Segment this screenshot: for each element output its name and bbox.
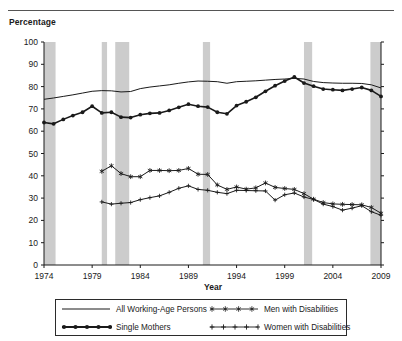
x-tick-label: 1979 — [83, 271, 102, 281]
series-marker — [225, 112, 229, 116]
x-tick-label: 2004 — [323, 271, 342, 281]
x-axis-title: Year — [204, 282, 223, 292]
legend-swatch-star-line — [208, 302, 260, 316]
series-marker — [292, 191, 296, 195]
x-tick-label: 1984 — [131, 271, 150, 281]
series-marker — [283, 193, 287, 197]
series-marker — [138, 198, 142, 202]
series-marker — [129, 116, 133, 120]
series-marker — [234, 188, 238, 192]
series-marker — [138, 113, 142, 117]
series-marker — [273, 84, 277, 88]
legend-swatch-circle-line — [60, 320, 112, 334]
series-marker — [263, 181, 267, 186]
legend-item-all-working-age-persons[interactable]: All Working-Age Persons — [56, 300, 208, 318]
series-marker — [100, 111, 104, 115]
series-marker — [196, 187, 200, 191]
series-marker — [148, 111, 152, 115]
x-tick-label: 2009 — [372, 271, 391, 281]
series-marker — [350, 206, 354, 210]
series-marker — [331, 88, 335, 92]
y-tick-label: 70 — [29, 104, 39, 114]
series-marker — [81, 110, 85, 114]
legend-swatch-line — [60, 302, 112, 316]
series-marker — [312, 84, 316, 88]
recession-band — [203, 42, 210, 265]
axes-group — [41, 42, 384, 268]
y-tick-label: 80 — [29, 82, 39, 92]
series-marker — [158, 111, 162, 115]
series-line-3 — [102, 186, 381, 215]
series-marker — [340, 208, 344, 212]
chart-canvas: 0102030405060708090100197419791984198919… — [0, 0, 402, 341]
series-marker — [283, 79, 287, 83]
series-marker — [71, 114, 75, 118]
series-marker — [360, 86, 364, 90]
series-marker — [186, 184, 190, 188]
series-marker — [292, 75, 296, 79]
recession-band — [370, 42, 381, 265]
series-line-1 — [44, 77, 381, 124]
series-marker — [215, 190, 219, 194]
x-tick-label: 1999 — [275, 271, 294, 281]
series-marker — [206, 105, 210, 109]
x-tick-label: 1994 — [227, 271, 246, 281]
y-tick-label: 90 — [29, 59, 39, 69]
recession-band — [44, 42, 56, 265]
recession-band — [115, 42, 129, 265]
legend-row: Single Mothers Women with Disabilities — [56, 318, 346, 336]
y-tick-label: 60 — [29, 126, 39, 136]
series-marker — [264, 89, 268, 93]
y-tick-label: 40 — [29, 171, 39, 181]
series-marker — [167, 190, 171, 194]
y-tick-label: 20 — [29, 215, 39, 225]
recession-band — [102, 42, 107, 265]
series-marker — [90, 104, 94, 108]
y-tick-label: 100 — [24, 37, 38, 47]
chart-legend: All Working-Age Persons Men with Disabil… — [55, 299, 347, 336]
recession-band — [304, 42, 312, 265]
series-marker — [157, 194, 161, 198]
x-tick-label: 1989 — [179, 271, 198, 281]
series-marker — [341, 88, 345, 92]
recession-bands-group — [44, 42, 381, 265]
series-marker — [369, 88, 373, 92]
series-marker — [177, 105, 181, 109]
series-marker — [302, 81, 306, 85]
x-tick-label: 1974 — [35, 271, 54, 281]
legend-row: All Working-Age Persons Men with Disabil… — [56, 300, 346, 318]
y-tick-label: 10 — [29, 238, 39, 248]
series-marker — [254, 189, 258, 193]
legend-label: Single Mothers — [116, 323, 171, 332]
legend-item-men-with-disabilities[interactable]: Men with Disabilities — [208, 300, 344, 318]
series-marker — [244, 100, 248, 104]
series-marker — [167, 109, 171, 113]
line-chart-svg: 0102030405060708090100197419791984198919… — [0, 0, 402, 341]
series-marker — [225, 192, 229, 196]
series-marker — [196, 104, 200, 108]
series-marker — [187, 102, 191, 106]
data-series-group — [42, 75, 383, 217]
legend-label: Men with Disabilities — [264, 305, 338, 314]
series-marker — [110, 110, 114, 114]
series-marker — [235, 104, 239, 108]
series-marker — [109, 202, 113, 206]
series-marker — [215, 110, 219, 114]
legend-item-women-with-disabilities[interactable]: Women with Disabilities — [208, 318, 344, 336]
series-line-2 — [102, 166, 381, 214]
legend-item-single-mothers[interactable]: Single Mothers — [56, 318, 208, 336]
y-tick-label: 30 — [29, 193, 39, 203]
series-marker — [321, 87, 325, 91]
series-marker — [148, 196, 152, 200]
series-marker — [61, 117, 65, 121]
series-marker — [177, 186, 181, 190]
legend-label: All Working-Age Persons — [116, 305, 207, 314]
legend-swatch-plus-line — [208, 320, 260, 334]
series-marker — [350, 87, 354, 91]
y-tick-label: 0 — [33, 260, 38, 270]
series-marker — [52, 122, 56, 126]
y-tick-label: 50 — [29, 149, 39, 159]
series-marker — [119, 115, 123, 119]
series-marker — [254, 95, 258, 99]
legend-label: Women with Disabilities — [264, 323, 350, 332]
